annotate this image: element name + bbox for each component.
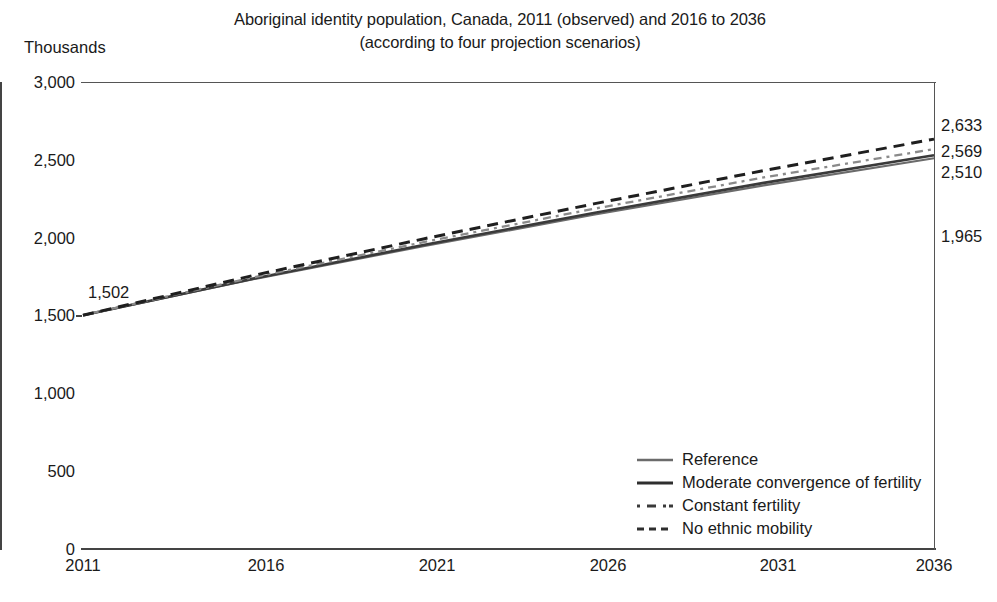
y-tick-mark-1500 [76, 315, 82, 317]
legend-item-reference[interactable]: Reference [636, 448, 936, 471]
data-label-start-1502: 1,502 [88, 283, 129, 302]
x-tick-2021: 2021 [419, 556, 456, 575]
y-axis-tick-labels: 3,000 2,500 2,000 1,500 1,000 500 0 [0, 0, 75, 602]
series-line-no-ethnic-mobility [83, 139, 934, 315]
x-tick-2036: 2036 [916, 556, 953, 575]
x-tick-2016: 2016 [248, 556, 285, 575]
y-tick-3000: 3,000 [7, 73, 75, 92]
legend-label-constant-fertility: Constant fertility [682, 497, 800, 514]
chart-title: Aboriginal identity population, Canada, … [150, 8, 850, 54]
chart-title-line2: (according to four projection scenarios) [150, 31, 850, 54]
series-line-reference [83, 158, 934, 315]
legend-label-reference: Reference [682, 451, 758, 468]
legend-label-no-ethnic-mobility: No ethnic mobility [682, 520, 812, 537]
data-label-end-1965: 1,965 [941, 227, 982, 246]
y-tick-1500: 1,500 [7, 306, 75, 325]
legend-label-moderate-convergence: Moderate convergence of fertility [682, 474, 921, 491]
data-label-end-2633: 2,633 [941, 116, 982, 135]
y-tick-2000: 2,000 [7, 229, 75, 248]
chart-container: Aboriginal identity population, Canada, … [0, 0, 997, 602]
x-tick-2026: 2026 [590, 556, 627, 575]
legend-item-moderate-convergence[interactable]: Moderate convergence of fertility [636, 471, 936, 494]
legend-item-no-ethnic-mobility[interactable]: No ethnic mobility [636, 517, 936, 540]
y-tick-2500: 2,500 [7, 151, 75, 170]
legend-line-dashed-icon [636, 522, 674, 536]
legend-line-solid-bold-icon [636, 476, 674, 490]
y-tick-500: 500 [7, 462, 75, 481]
legend-item-constant-fertility[interactable]: Constant fertility [636, 494, 936, 517]
series-line-constant-fertility [83, 149, 934, 315]
series-line-moderate-convergence-of-fertility [83, 155, 934, 315]
x-tick-2031: 2031 [760, 556, 797, 575]
x-axis-line [81, 548, 936, 550]
x-tick-2011: 2011 [65, 556, 100, 575]
data-label-end-2569: 2,569 [941, 142, 982, 161]
plot-frame-top [81, 82, 936, 83]
legend-line-dotted-icon [636, 499, 674, 513]
data-label-end-2510: 2,510 [941, 163, 982, 182]
legend-line-solid-icon [636, 453, 674, 467]
chart-title-line1: Aboriginal identity population, Canada, … [234, 10, 766, 28]
chart-legend: Reference Moderate convergence of fertil… [636, 448, 936, 540]
y-tick-1000: 1,000 [7, 384, 75, 403]
